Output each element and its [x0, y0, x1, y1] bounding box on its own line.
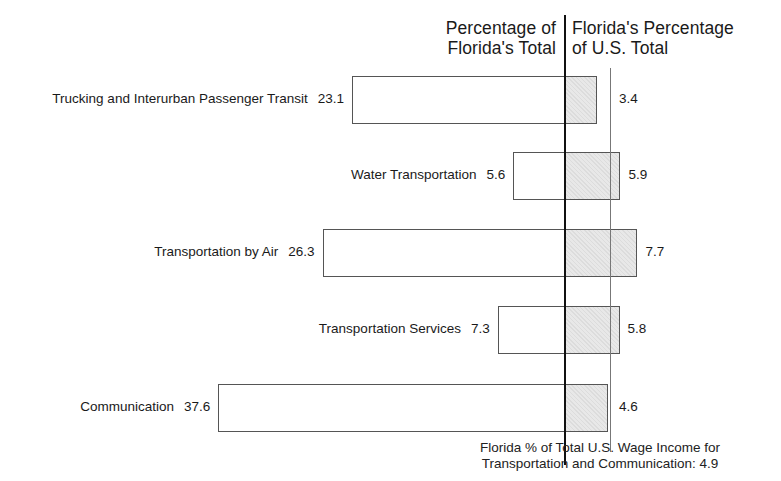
bar-florida-share [218, 384, 565, 432]
bar-florida-share [323, 229, 565, 277]
bar-us-share [565, 229, 637, 277]
left-value: 26.3 [288, 244, 314, 259]
category-name: Trucking and Interurban Passenger Transi… [52, 91, 307, 106]
chart-row: Water Transportation5.65.9 [0, 152, 781, 200]
reference-line [610, 68, 611, 452]
bar-us-share [565, 152, 620, 200]
right-value: 4.6 [619, 399, 638, 414]
category-name: Water Transportation [351, 167, 477, 182]
left-value: 23.1 [318, 91, 344, 106]
left-value: 7.3 [471, 321, 490, 336]
right-value: 7.7 [645, 244, 664, 259]
right-column-header: Florida's Percentage of U.S. Total [572, 18, 734, 58]
chart-row: Transportation Services7.35.8 [0, 306, 781, 354]
center-axis [564, 15, 566, 465]
chart-row: Communication37.64.6 [0, 384, 781, 432]
chart-row: Transportation by Air26.37.7 [0, 229, 781, 277]
bar-us-share [565, 384, 608, 432]
left-value: 37.6 [184, 399, 210, 414]
category-label: Communication37.6 [80, 399, 210, 414]
right-value: 5.9 [628, 167, 647, 182]
caption-line1: Florida % of Total U.S. Wage Income for [430, 440, 770, 456]
right-value: 5.8 [628, 321, 647, 336]
bar-us-share [565, 306, 620, 354]
right-value: 3.4 [619, 91, 638, 106]
right-header-line1: Florida's Percentage [572, 18, 734, 38]
bar-florida-share [513, 152, 565, 200]
caption-line2: Transportation and Communication: 4.9 [430, 456, 770, 472]
left-column-header: Percentage of Florida's Total [446, 18, 556, 58]
category-name: Transportation Services [319, 321, 461, 336]
left-value: 5.6 [487, 167, 506, 182]
bar-florida-share [498, 306, 565, 354]
category-name: Transportation by Air [154, 244, 278, 259]
category-label: Water Transportation5.6 [351, 167, 505, 182]
reference-line-caption: Florida % of Total U.S. Wage Income for … [430, 440, 770, 472]
category-label: Transportation by Air26.3 [154, 244, 314, 259]
category-label: Trucking and Interurban Passenger Transi… [52, 91, 344, 106]
bar-florida-share [352, 76, 565, 124]
chart-row: Trucking and Interurban Passenger Transi… [0, 76, 781, 124]
left-header-line2: Florida's Total [446, 38, 556, 58]
category-label: Transportation Services7.3 [319, 321, 490, 336]
right-header-line2: of U.S. Total [572, 38, 734, 58]
bar-us-share [565, 76, 597, 124]
left-header-line1: Percentage of [446, 18, 556, 38]
category-name: Communication [80, 399, 174, 414]
